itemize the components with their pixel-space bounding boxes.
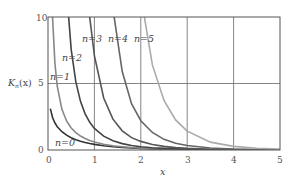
- y-axis-label: Kn(x): [7, 77, 32, 89]
- x-tick-5: 5: [277, 155, 283, 165]
- y-tick-5: 5: [38, 78, 44, 88]
- label-n0: n=0: [55, 137, 75, 148]
- x-tick-3: 3: [185, 155, 191, 165]
- x-tick-4: 4: [231, 155, 237, 165]
- curve-n-1: [50, 0, 280, 150]
- label-n1: n=1: [50, 71, 70, 82]
- label-n2: n=2: [62, 52, 82, 63]
- curve-n-3: [50, 0, 280, 150]
- label-n3: n=3: [82, 33, 102, 44]
- y-tick-10: 10: [36, 13, 48, 23]
- x-tick-1: 1: [92, 155, 98, 165]
- label-n5: n=5: [134, 33, 154, 44]
- y-tick-0: 0: [38, 145, 44, 155]
- curves: [50, 0, 280, 150]
- label-n4: n=4: [108, 33, 128, 44]
- curve-n-2: [50, 0, 280, 150]
- x-tick-0: 0: [46, 155, 52, 165]
- x-axis-label: x: [160, 166, 166, 177]
- bessel-k-chart: 10 5 0 0 1 2 3 4 5 x Kn(x) n=0 n=1 n=2 n…: [0, 0, 293, 182]
- curve-n-5: [50, 0, 280, 149]
- curve-n-4: [50, 0, 280, 150]
- x-tick-2: 2: [138, 155, 144, 165]
